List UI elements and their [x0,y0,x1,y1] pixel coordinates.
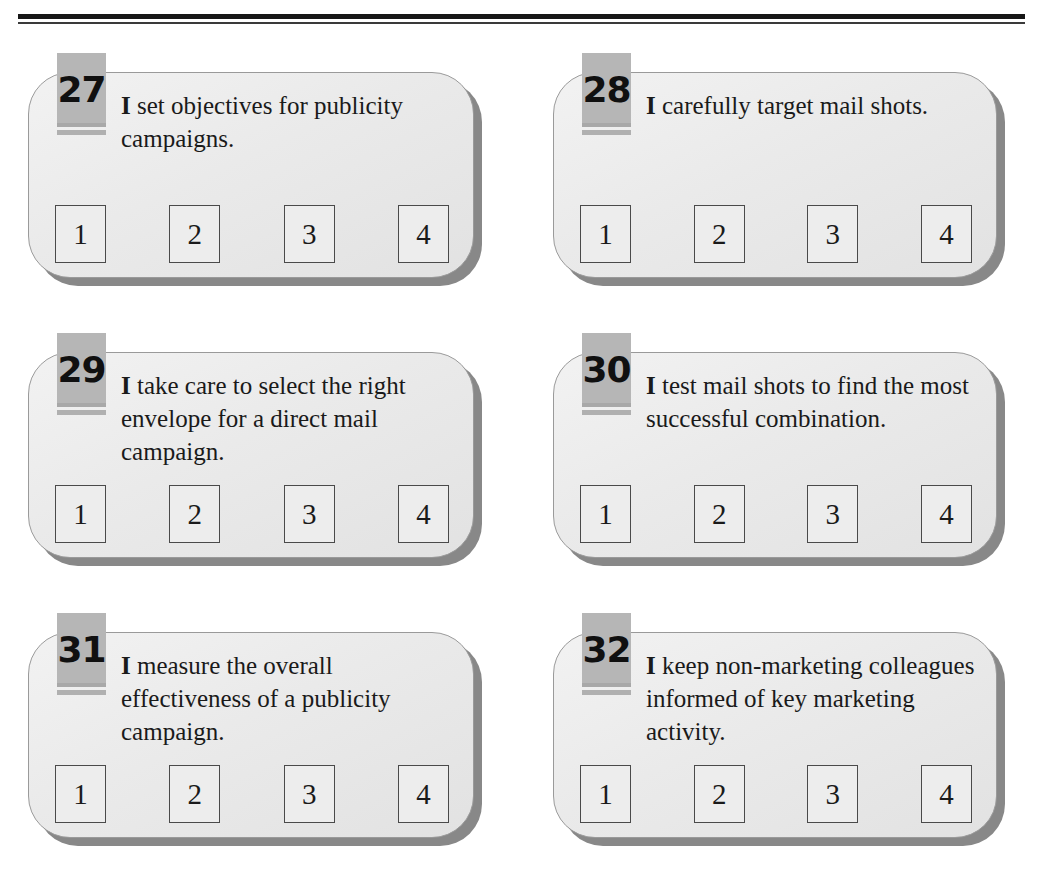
answer-option-1[interactable]: 1 [580,205,631,263]
badge-underline-bottom [582,690,631,695]
answer-option-4[interactable]: 4 [921,205,972,263]
badge-underline-bottom [582,130,631,135]
statement-lead: I [646,372,656,399]
question-number: 31 [57,613,106,683]
answer-option-2[interactable]: 2 [169,765,220,823]
badge-underline-top [57,683,106,687]
badge-underline-bottom [582,410,631,415]
question-statement: I set objectives for publicity campaigns… [121,89,451,155]
answer-options: 1 2 3 4 [55,765,449,823]
question-number: 32 [582,613,631,683]
badge-underline-top [582,123,631,127]
statement-text: carefully target mail shots. [656,92,928,119]
badge-underline-top [582,683,631,687]
question-statement: I keep non-marketing colleagues informed… [646,649,981,748]
answer-option-1[interactable]: 1 [55,765,106,823]
statement-text: take care to select the right envelope f… [121,372,406,465]
question-number-badge: 28 [582,53,631,123]
statement-text: test mail shots to find the most success… [646,372,969,432]
question-card-slot: 31 I measure the overall effectiveness o… [0,604,525,879]
answer-option-4[interactable]: 4 [921,765,972,823]
question-number-badge: 31 [57,613,106,683]
badge-underline-bottom [57,690,106,695]
answer-options: 1 2 3 4 [55,485,449,543]
question-number: 28 [582,53,631,123]
answer-option-4[interactable]: 4 [398,485,449,543]
question-card-slot: 27 I set objectives for publicity campai… [0,44,525,324]
statement-text: set objectives for publicity campaigns. [121,92,403,152]
answer-option-3[interactable]: 3 [284,765,335,823]
answer-options: 1 2 3 4 [580,205,972,263]
answer-option-1[interactable]: 1 [580,485,631,543]
badge-underline-top [57,123,106,127]
answer-option-3[interactable]: 3 [807,485,858,543]
question-card-slot: 30 I test mail shots to find the most su… [525,324,1025,604]
answer-options: 1 2 3 4 [580,765,972,823]
question-card: 28 I carefully target mail shots. 1 2 3 … [553,72,997,278]
statement-lead: I [121,92,131,119]
question-number: 29 [57,333,106,403]
question-statement: I take care to select the right envelope… [121,369,451,468]
answer-option-1[interactable]: 1 [55,485,106,543]
badge-underline-bottom [57,130,106,135]
question-statement: I measure the overall effectiveness of a… [121,649,451,748]
statement-text: measure the overall effectiveness of a p… [121,652,391,745]
statement-lead: I [646,92,656,119]
badge-underline-rules [582,683,631,697]
statement-text: keep non-marketing colleagues informed o… [646,652,974,745]
answer-option-1[interactable]: 1 [55,205,106,263]
question-card-slot: 28 I carefully target mail shots. 1 2 3 … [525,44,1025,324]
question-number-badge: 29 [57,333,106,403]
question-number: 30 [582,333,631,403]
badge-underline-top [57,403,106,407]
badge-underline-rules [582,123,631,137]
answer-option-4[interactable]: 4 [398,765,449,823]
statement-lead: I [121,372,131,399]
badge-underline-bottom [57,410,106,415]
answer-option-1[interactable]: 1 [580,765,631,823]
badge-underline-rules [57,123,106,137]
question-card: 30 I test mail shots to find the most su… [553,352,997,558]
answer-option-2[interactable]: 2 [694,765,745,823]
question-number-badge: 30 [582,333,631,403]
badge-underline-rules [57,683,106,697]
badge-underline-rules [582,403,631,417]
answer-option-3[interactable]: 3 [284,485,335,543]
page-header-rule [18,14,1025,30]
answer-option-2[interactable]: 2 [694,205,745,263]
answer-option-3[interactable]: 3 [807,765,858,823]
answer-option-3[interactable]: 3 [807,205,858,263]
question-card: 29 I take care to select the right envel… [28,352,474,558]
answer-option-2[interactable]: 2 [169,205,220,263]
answer-option-4[interactable]: 4 [921,485,972,543]
answer-options: 1 2 3 4 [580,485,972,543]
question-number-badge: 27 [57,53,106,123]
question-grid: 27 I set objectives for publicity campai… [0,44,1043,879]
question-card-slot: 32 I keep non-marketing colleagues infor… [525,604,1025,879]
question-statement: I carefully target mail shots. [646,89,981,122]
question-card: 31 I measure the overall effectiveness o… [28,632,474,838]
answer-option-3[interactable]: 3 [284,205,335,263]
statement-lead: I [646,652,656,679]
answer-option-4[interactable]: 4 [398,205,449,263]
answer-option-2[interactable]: 2 [694,485,745,543]
statement-lead: I [121,652,131,679]
question-card: 32 I keep non-marketing colleagues infor… [553,632,997,838]
question-number-badge: 32 [582,613,631,683]
question-card-slot: 29 I take care to select the right envel… [0,324,525,604]
answer-options: 1 2 3 4 [55,205,449,263]
badge-underline-rules [57,403,106,417]
answer-option-2[interactable]: 2 [169,485,220,543]
header-rule-thin [18,22,1025,24]
question-card: 27 I set objectives for publicity campai… [28,72,474,278]
badge-underline-top [582,403,631,407]
question-statement: I test mail shots to find the most succe… [646,369,981,435]
question-number: 27 [57,53,106,123]
